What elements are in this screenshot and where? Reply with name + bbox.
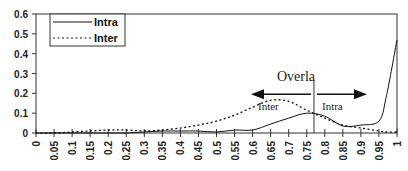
x-tick-label: 0.35	[157, 141, 168, 161]
x-tick-label: 0	[31, 141, 42, 147]
x-tick-label: 0.55	[230, 141, 241, 161]
x-tick-label: 1	[392, 141, 403, 147]
x-tick-label: 0.75	[302, 141, 313, 161]
x-tick-label: 0.6	[248, 141, 259, 155]
y-tick-label: 0	[22, 128, 28, 139]
chart: 00.10.20.30.40.50.6 00.050.10.150.20.250…	[0, 0, 408, 171]
legend: Intra Inter	[50, 14, 125, 46]
x-tick-label: 0.4	[175, 141, 186, 155]
right-arrow-head-icon	[354, 89, 367, 99]
series-line-intra	[36, 40, 397, 133]
y-tick-label: 0.2	[14, 88, 28, 99]
x-tick-label: 0.1	[67, 141, 78, 155]
y-tick-label: 0.3	[14, 69, 28, 80]
y-tick-label: 0.1	[14, 108, 28, 119]
x-tick-label: 0.65	[266, 141, 277, 161]
legend-label-inter: Inter	[94, 32, 119, 44]
x-tick-label: 0.9	[356, 141, 367, 155]
x-tick-label: 0.05	[49, 141, 60, 161]
legend-label-intra: Intra	[94, 16, 119, 28]
y-tick-label: 0.4	[14, 49, 28, 60]
x-tick-label: 0.8	[320, 141, 331, 155]
x-tick-label: 0.2	[103, 141, 114, 155]
x-tick-label: 0.3	[139, 141, 150, 155]
x-tick-label: 0.85	[338, 141, 349, 161]
x-tick-label: 0.45	[193, 141, 204, 161]
x-tick-label: 0.7	[284, 141, 295, 155]
left-arrow-head-icon	[251, 89, 264, 99]
overlap-label: Overla	[277, 69, 316, 84]
x-tick-label: 0.5	[212, 141, 223, 155]
x-tick-label: 0.25	[121, 141, 132, 161]
x-tick-label: 0.15	[85, 141, 96, 161]
inter-arrow-label: Inter	[258, 100, 279, 112]
series-line-inter	[36, 100, 397, 133]
x-tick-label: 0.95	[374, 141, 385, 161]
y-tick-label: 0.6	[14, 9, 28, 20]
intra-arrow-label: Intra	[322, 100, 343, 112]
y-tick-label: 0.5	[14, 29, 28, 40]
